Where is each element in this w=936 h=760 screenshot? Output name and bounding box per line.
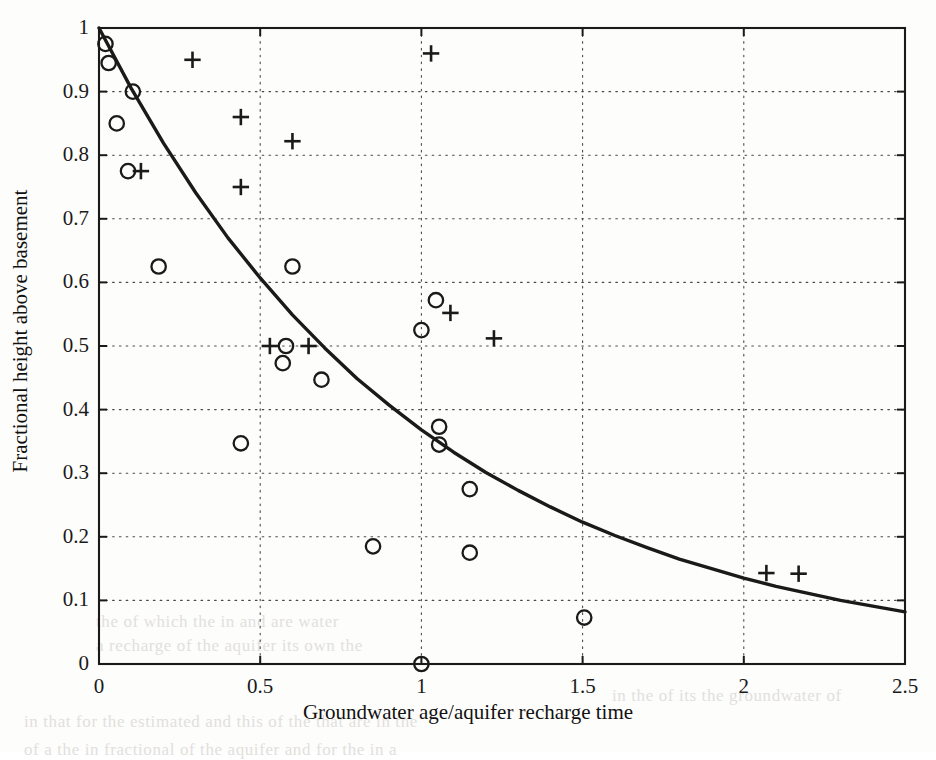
x-axis-title: Groundwater age/aquifer recharge time (0, 700, 936, 725)
data-point-circle (276, 356, 290, 370)
gridlines (99, 28, 905, 664)
data-point-circle (432, 420, 446, 434)
data-point-circle (366, 539, 380, 553)
data-point-plus (790, 565, 806, 581)
y-tick-label: 0.1 (33, 587, 89, 612)
y-tick-label: 0.9 (33, 79, 89, 104)
data-point-plus (486, 330, 502, 346)
y-tick-label: 0 (33, 651, 89, 676)
x-tick-label: 2.5 (875, 674, 935, 699)
data-point-plus (233, 179, 249, 195)
fit-curve (99, 28, 905, 612)
y-tick-label: 0.4 (33, 397, 89, 422)
data-point-plus (133, 163, 149, 179)
y-tick-label: 0.6 (33, 269, 89, 294)
y-tick-label: 0.7 (33, 206, 89, 231)
x-tick-label: 1 (391, 674, 451, 699)
data-point-circle (234, 436, 248, 450)
data-point-circle (463, 482, 477, 496)
y-tick-label: 0.3 (33, 460, 89, 485)
y-tick-label: 0.2 (33, 524, 89, 549)
data-point-plus (442, 305, 458, 321)
data-point-plus (423, 45, 439, 61)
y-tick-label: 1 (33, 15, 89, 40)
x-tick-label: 1.5 (553, 674, 613, 699)
data-point-plus (262, 338, 278, 354)
data-point-plus (300, 338, 316, 354)
y-axis-title: Fractional height above basement (8, 166, 33, 496)
data-point-circle (151, 259, 165, 273)
data-point-plus (284, 133, 300, 149)
data-point-circle (577, 610, 591, 624)
data-point-circle (101, 56, 115, 70)
data-point-circle (110, 116, 124, 130)
data-point-circle (314, 373, 328, 387)
x-tick-label: 2 (714, 674, 774, 699)
plus-marker-series (133, 45, 807, 582)
data-point-circle (463, 546, 477, 560)
data-point-plus (184, 52, 200, 68)
x-tick-label: 0 (69, 674, 129, 699)
data-point-plus (233, 109, 249, 125)
data-point-circle (429, 293, 443, 307)
x-tick-label: 0.5 (230, 674, 290, 699)
circle-marker-series (98, 37, 591, 672)
y-tick-label: 0.5 (33, 333, 89, 358)
data-point-circle (285, 259, 299, 273)
y-tick-label: 0.8 (33, 142, 89, 167)
data-point-plus (758, 565, 774, 581)
